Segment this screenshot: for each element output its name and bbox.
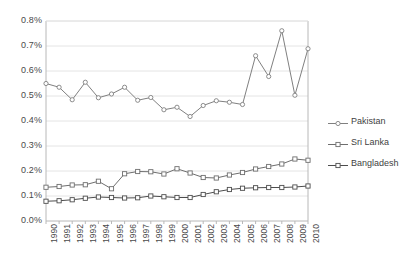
data-point-marker: [83, 196, 87, 200]
data-point-marker: [149, 170, 153, 174]
x-tick-label: 2004: [233, 224, 242, 243]
data-point-marker: [57, 184, 61, 188]
data-point-marker: [57, 85, 61, 89]
data-point-marker: [70, 198, 74, 202]
legend-label: Sri Lanka: [349, 137, 389, 147]
y-tick-label: 0.1%: [2, 191, 42, 200]
series-line-pakistan: [46, 31, 308, 117]
data-point-marker: [254, 186, 258, 190]
x-tick-label: 2002: [207, 224, 216, 243]
data-point-marker: [149, 95, 153, 99]
x-tick-label: 2006: [260, 224, 269, 243]
x-tick-label: 2001: [194, 224, 203, 243]
y-tick-label: 0.5%: [2, 91, 42, 100]
data-point-marker: [227, 100, 231, 104]
x-tick-label: 1998: [155, 224, 164, 243]
y-tick-label: 0.7%: [2, 41, 42, 50]
legend-marker-icon: [327, 115, 349, 126]
data-point-marker: [149, 194, 153, 198]
data-point-marker: [123, 85, 127, 89]
data-point-marker: [175, 195, 179, 199]
data-point-marker: [306, 158, 310, 162]
y-tick-label: 0.0%: [2, 216, 42, 225]
data-point-marker: [162, 195, 166, 199]
data-point-marker: [267, 185, 271, 189]
data-point-marker: [240, 102, 244, 106]
data-point-marker: [162, 108, 166, 112]
data-point-marker: [188, 114, 192, 118]
x-tick-label: 1993: [89, 224, 98, 243]
y-axis-tick-labels: 0.8%0.7%0.6%0.5%0.4%0.3%0.2%0.1%0.0%: [0, 0, 42, 272]
legend-item-bangladesh[interactable]: Bangladesh: [327, 154, 415, 171]
data-point-marker: [109, 92, 113, 96]
x-tick-label: 2008: [286, 224, 295, 243]
data-point-marker: [280, 185, 284, 189]
x-tick-label: 1997: [142, 224, 151, 243]
x-tick-label: 1991: [63, 224, 72, 243]
data-point-marker: [267, 164, 271, 168]
legend-item-sri-lanka[interactable]: Sri Lanka: [327, 133, 415, 150]
x-tick-label: 2007: [273, 224, 282, 243]
data-point-marker: [96, 96, 100, 100]
data-point-marker: [293, 93, 297, 97]
data-point-marker: [254, 54, 258, 58]
y-tick-label: 0.4%: [2, 116, 42, 125]
x-tick-label: 1994: [102, 224, 111, 243]
data-point-marker: [136, 196, 140, 200]
data-point-marker: [109, 187, 113, 191]
data-point-marker: [136, 98, 140, 102]
data-point-marker: [293, 157, 297, 161]
x-tick-label: 2009: [299, 224, 308, 243]
data-point-marker: [70, 183, 74, 187]
data-point-marker: [280, 162, 284, 166]
data-point-marker: [267, 74, 271, 78]
data-point-marker: [123, 196, 127, 200]
legend-label: Bangladesh: [349, 158, 399, 168]
x-tick-label: 2005: [247, 224, 256, 243]
legend-marker-icon: [327, 136, 349, 147]
data-point-marker: [293, 185, 297, 189]
data-point-marker: [175, 167, 179, 171]
data-point-marker: [201, 103, 205, 107]
x-tick-label: 2003: [220, 224, 229, 243]
x-tick-label: 1992: [76, 224, 85, 243]
data-point-marker: [214, 176, 218, 180]
data-point-marker: [83, 183, 87, 187]
chart-legend: PakistanSri LankaBangladesh: [327, 112, 415, 175]
data-point-marker: [96, 179, 100, 183]
legend-item-pakistan[interactable]: Pakistan: [327, 112, 415, 129]
data-point-marker: [44, 81, 48, 85]
x-tick-label: 2000: [181, 224, 190, 243]
data-point-marker: [188, 195, 192, 199]
data-point-marker: [201, 175, 205, 179]
x-tick-label: 1996: [129, 224, 138, 243]
data-point-marker: [214, 99, 218, 103]
data-point-marker: [136, 169, 140, 173]
line-chart: 0.8%0.7%0.6%0.5%0.4%0.3%0.2%0.1%0.0% 199…: [0, 0, 415, 272]
data-point-marker: [188, 171, 192, 175]
x-tick-label: 2010: [312, 224, 321, 243]
x-tick-label: 1999: [168, 224, 177, 243]
data-point-marker: [123, 172, 127, 176]
data-point-marker: [280, 29, 284, 33]
data-point-marker: [214, 190, 218, 194]
data-point-marker: [57, 199, 61, 203]
y-tick-label: 0.6%: [2, 66, 42, 75]
y-tick-label: 0.3%: [2, 141, 42, 150]
x-axis-tick-labels: 1990199119921993199419951996199719981999…: [46, 224, 308, 272]
legend-label: Pakistan: [349, 116, 386, 126]
x-tick-label: 1990: [50, 224, 59, 243]
y-tick-label: 0.8%: [2, 16, 42, 25]
x-tick-label: 1995: [116, 224, 125, 243]
data-point-marker: [175, 105, 179, 109]
data-point-marker: [240, 186, 244, 190]
data-point-marker: [227, 187, 231, 191]
data-point-marker: [96, 195, 100, 199]
data-point-marker: [240, 170, 244, 174]
y-tick-label: 0.2%: [2, 166, 42, 175]
data-point-marker: [306, 184, 310, 188]
data-point-marker: [44, 185, 48, 189]
data-point-marker: [83, 80, 87, 84]
data-point-marker: [70, 98, 74, 102]
data-point-marker: [227, 173, 231, 177]
